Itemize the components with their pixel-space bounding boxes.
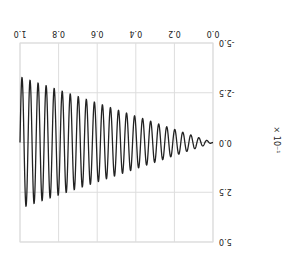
signal-line bbox=[20, 78, 213, 206]
y-tick-label: 2.5 bbox=[219, 187, 232, 196]
y-tick-labels: -5.0-2.50.02.55.0 bbox=[219, 38, 235, 246]
y-tick-label: 0.0 bbox=[219, 138, 232, 147]
x-tick-label: 0.2 bbox=[168, 29, 181, 38]
y-tick-label: 5.0 bbox=[219, 237, 232, 246]
x-tick-label: 0.6 bbox=[91, 29, 104, 38]
x-tick-label: 1.0 bbox=[14, 29, 27, 38]
x-tick-label: 0.0 bbox=[207, 29, 220, 38]
y-tick-label: -2.5 bbox=[219, 88, 235, 97]
y-tick-label: -5.0 bbox=[219, 38, 235, 47]
x-tick-label: 0.8 bbox=[52, 29, 65, 38]
x-tick-labels: 0.00.20.40.60.81.0 bbox=[14, 29, 220, 38]
y-scale-label: × 10⁻¹ bbox=[272, 127, 281, 154]
x-tick-label: 0.4 bbox=[129, 29, 142, 38]
chart-figure: 0.00.20.40.60.81.0 -5.0-2.50.02.55.0 × 1… bbox=[0, 0, 288, 259]
